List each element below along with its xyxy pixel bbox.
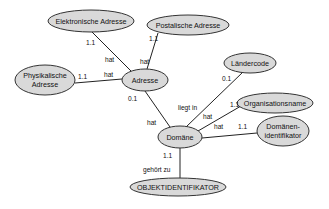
entity-label: Organisationsname (244, 99, 306, 108)
entity-label: Ländercode (231, 59, 269, 68)
entity-organisationsname: Organisationsname (237, 93, 313, 113)
entity-label: Elektronische Adresse (55, 17, 126, 26)
relationship-line-adresse-elektronische_adresse (92, 32, 131, 71)
entity-label: Adresse (32, 80, 58, 89)
edge-label: 0.1 (222, 75, 231, 82)
edge-label: hat (105, 56, 114, 63)
edge-label: 0.1 (128, 95, 137, 102)
relationship-line-domaene-domaenenidentifikator (202, 133, 257, 138)
edge-label: gehört zu (143, 166, 171, 174)
edge-label: 1.1 (163, 152, 172, 159)
edge-label: hat (140, 58, 149, 65)
edge-label: hat (214, 123, 223, 130)
entity-domaenenidentifikator: Domänen-identifikator (257, 116, 309, 146)
edge-labels-layer: 1.1hat1.1hat1.1hat0.1hat0.1liegt in1.1ha… (78, 35, 247, 174)
entity-laendercode: Ländercode (224, 53, 276, 73)
edge-label: 1.1 (86, 39, 95, 46)
entity-domaene: Domäne (158, 126, 202, 148)
entity-physikalische_adresse: PhysikalischeAdresse (15, 65, 75, 95)
edge-label: hat (104, 71, 113, 78)
entity-label: Domäne (166, 133, 193, 142)
edge-label: 1.1 (238, 123, 247, 130)
entity-label: OBJEKTIDENTIFIKATOR (137, 183, 219, 192)
edge-label: liegt in (178, 104, 197, 112)
edge-label: 1.1 (149, 35, 158, 42)
entity-elektronische_adresse: Elektronische Adresse (48, 10, 134, 32)
entity-label: Postalische Adresse (156, 21, 221, 30)
er-diagram-canvas: Elektronische AdressePostalische Adresse… (0, 0, 329, 209)
er-diagram: Elektronische AdressePostalische Adresse… (0, 0, 329, 209)
entity-label: Adresse (132, 76, 158, 85)
edge-label: hat (203, 113, 212, 120)
edge-label: 1.1 (78, 73, 87, 80)
relationship-line-domaene-laendercode (186, 72, 243, 127)
edge-label: 1.1 (230, 101, 239, 108)
entity-postalische_adresse: Postalische Adresse (147, 15, 229, 35)
entity-objektidentifikator: OBJEKTIDENTIFIKATOR (130, 178, 226, 196)
entity-label: identifikator (265, 131, 302, 140)
entity-adresse: Adresse (122, 69, 168, 91)
edge-label: hat (147, 119, 156, 126)
